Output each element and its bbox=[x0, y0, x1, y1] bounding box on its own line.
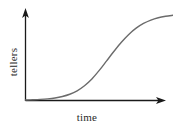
y-axis-label: tellers bbox=[8, 48, 19, 76]
chart-figure: tellers time bbox=[0, 0, 173, 129]
sigmoid-growth-curve bbox=[26, 15, 174, 100]
chart-plot-area bbox=[0, 0, 173, 129]
x-axis-label: time bbox=[77, 112, 97, 123]
